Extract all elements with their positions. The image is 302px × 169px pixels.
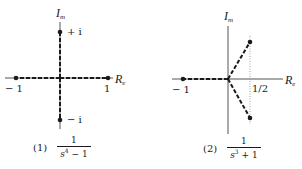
caption-2: (2) 1 s3 + 1 xyxy=(203,137,261,161)
label-one: 1 xyxy=(104,84,110,94)
label-half: 1/2 xyxy=(252,84,268,94)
label-neg-one-2: − 1 xyxy=(172,85,190,95)
pole-minus-i xyxy=(58,118,63,123)
pole-neg-one xyxy=(14,76,19,81)
imag-axis-label-2: Im xyxy=(224,10,233,24)
diagram-1 xyxy=(5,22,113,129)
pole-neg-one-2 xyxy=(181,77,186,82)
pole-one xyxy=(106,76,111,81)
dashed-to-upper-pole xyxy=(228,42,250,79)
imag-axis-label-1: Im xyxy=(56,7,65,21)
pole-plus-i xyxy=(58,30,63,35)
caption-1: (1) 1 s4 − 1 xyxy=(33,136,91,160)
real-axis-label-1: Re xyxy=(115,73,125,87)
pole-lower xyxy=(248,116,253,121)
dashed-to-lower-pole xyxy=(228,79,250,118)
transfer-function-1: 1 s4 − 1 xyxy=(57,136,90,160)
transfer-function-2: 1 s3 + 1 xyxy=(227,137,260,161)
caption-number-2: (2) xyxy=(203,143,217,154)
pole-upper xyxy=(248,40,253,45)
label-minus-i: − i xyxy=(67,115,82,125)
label-neg-one-1: − 1 xyxy=(5,84,23,94)
label-plus-i: + i xyxy=(67,27,82,37)
real-axis-label-2: Re xyxy=(285,74,295,88)
diagram-2 xyxy=(172,26,283,134)
caption-number-1: (1) xyxy=(33,142,47,153)
